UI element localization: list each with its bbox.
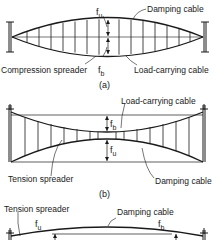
label-tension-spreader-b: Tension spreader [8, 175, 73, 184]
caption-b: (b) [99, 190, 110, 199]
caption-a: (a) [99, 81, 110, 90]
symbol-fb-c: fb [158, 220, 164, 231]
figure-a-drawing [6, 9, 209, 65]
label-compression-spreader-a: Compression spreader [1, 66, 87, 75]
label-load-carrying-cable-a: Load-carrying cable [134, 66, 209, 75]
symbol-fb-b: fb [110, 120, 116, 131]
label-damping-cable-a: Damping cable [147, 5, 204, 14]
symbol-fu-b: fu [110, 146, 116, 157]
label-load-carrying-cable-b: Load-carrying cable [121, 97, 196, 106]
symbol-fb-a: fb [98, 66, 104, 77]
symbol-fu-c: fu [35, 220, 41, 231]
figure-b-drawing [6, 103, 208, 178]
label-tension-spreader-c: Tension spreader [4, 205, 69, 214]
label-damping-cable-c: Damping cable [117, 208, 174, 217]
symbol-fu-a: fu [96, 8, 102, 19]
label-damping-cable-b: Damping cable [155, 177, 212, 186]
